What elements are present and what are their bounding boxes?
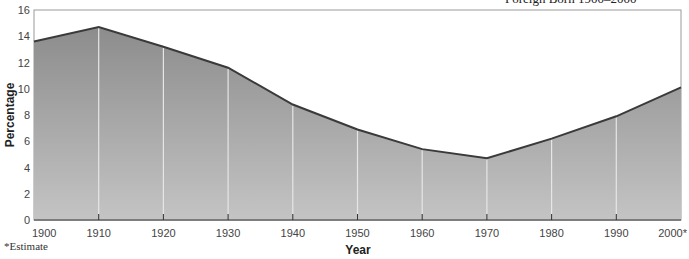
area-series [34,27,681,220]
x-tick-label: 1960 [410,227,434,239]
y-axis-label: Percentage [3,82,17,147]
y-tick-label: 2 [24,188,30,200]
x-tick-label: 1940 [281,227,305,239]
y-tick-label: 8 [24,109,30,121]
y-tick-label: 10 [18,83,30,95]
x-tick-label: 1970 [475,227,499,239]
y-axis-ticks: 0246810121416 [18,4,30,226]
x-axis-ticks: 1900191019201930194019501960197019801990… [32,227,688,239]
y-tick-label: 14 [18,30,30,42]
x-tick-label: 1980 [539,227,563,239]
x-tick-label: 1930 [216,227,240,239]
y-tick-label: 12 [18,57,30,69]
x-tick-label: 1910 [86,227,110,239]
y-tick-label: 6 [24,135,30,147]
estimate-footnote: *Estimate [4,240,48,252]
y-tick-label: 16 [18,4,30,16]
x-tick-label: 1900 [32,227,56,239]
x-tick-label: 1920 [151,227,175,239]
x-tick-label: 2000* [658,227,687,239]
y-tick-label: 4 [24,162,30,174]
x-tick-label: 1990 [604,227,628,239]
x-tick-label: 1950 [345,227,369,239]
area-chart: 0246810121416 19001910192019301940195019… [0,0,689,259]
x-axis-label: Year [345,243,371,257]
y-tick-label: 0 [24,214,30,226]
